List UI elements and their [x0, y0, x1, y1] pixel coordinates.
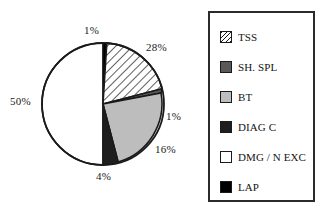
black-swatch-icon — [220, 181, 232, 193]
legend-label-lap: LAP — [238, 181, 259, 193]
pie-slice-dmg-n-exc — [42, 43, 103, 165]
legend-item-sh-spl: SH. SPL — [220, 52, 316, 82]
light-gray-swatch-icon — [220, 91, 232, 103]
legend-item-dmg-n-exc: DMG / N EXC — [220, 142, 316, 172]
legend-item-lap: LAP — [220, 172, 316, 202]
pie-label-sh-spl: 1% — [166, 110, 181, 122]
legend-label-bt: BT — [238, 91, 252, 103]
legend-label-dmg-n-exc: DMG / N EXC — [238, 151, 306, 163]
white-swatch-icon — [220, 151, 232, 163]
pie-label-dmg-n-exc: 50% — [10, 95, 31, 107]
legend-item-tss: TSS — [220, 22, 316, 52]
hatch-swatch-icon — [220, 31, 232, 43]
pie-label-top-sliver: 1% — [84, 24, 99, 36]
legend-label-diag-c: DIAG C — [238, 121, 276, 133]
pie-plot-area: 1% 28% 1% 16% 4% 50% — [0, 0, 200, 217]
legend-label-sh-spl: SH. SPL — [238, 61, 277, 73]
pie-chart-figure: 1% 28% 1% 16% 4% 50% TSS SH. SPL BT DIA — [0, 0, 327, 217]
dark-gray-swatch-icon — [220, 61, 232, 73]
legend-item-diag-c: DIAG C — [220, 112, 316, 142]
pie-label-bt: 16% — [155, 143, 176, 155]
legend-box: TSS SH. SPL BT DIAG C DMG / N EXC LAP — [208, 11, 315, 202]
pie-label-diag-c: 4% — [96, 170, 111, 182]
near-black-swatch-icon — [220, 121, 232, 133]
legend-list: TSS SH. SPL BT DIAG C DMG / N EXC LAP — [220, 22, 316, 202]
pie-label-tss: 28% — [146, 41, 167, 53]
legend-label-tss: TSS — [238, 31, 257, 43]
pie-svg — [0, 0, 200, 217]
legend-item-bt: BT — [220, 82, 316, 112]
